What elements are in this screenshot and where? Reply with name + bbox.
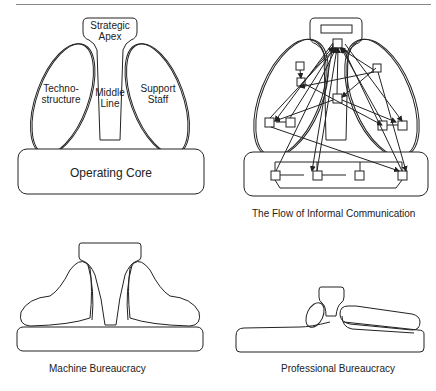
panel-informal-communication [239,18,434,196]
label-middle-line-2: Line [101,98,120,109]
label-operating-core: Operating Core [70,166,152,180]
panel-machine-bureaucracy [17,243,203,351]
caption-machine-bureaucracy: Machine Bureaucracy [49,363,146,374]
caption-professional-bureaucracy: Professional Bureaucracy [281,363,395,374]
label-strategic-apex-2: Apex [99,31,122,42]
label-strategic-apex-1: Strategic [90,20,129,31]
panel-professional-bureaucracy [236,287,424,352]
caption-informal-communication: The Flow of Informal Communication [252,208,415,219]
label-technostructure-2: structure [42,94,81,105]
diagram-canvas: Strategic Apex Techno- structure Middle … [0,0,436,391]
label-support-staff-2: Staff [148,94,169,105]
label-middle-line-1: Middle [95,87,125,98]
label-technostructure-1: Techno- [43,83,79,94]
label-support-staff-1: Support [140,83,175,94]
